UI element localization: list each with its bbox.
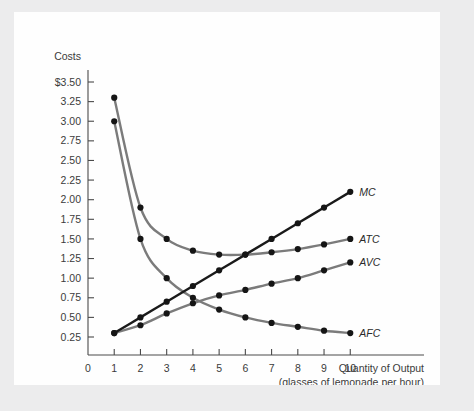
y-tick-label: 3.00 xyxy=(61,115,82,127)
curve-line-avc xyxy=(114,262,350,333)
y-tick-label: $3.50 xyxy=(55,76,81,88)
cost-curves-chart: $3.503.253.002.752.502.252.001.751.501.2… xyxy=(14,12,440,385)
data-point xyxy=(111,118,117,124)
y-tick-label: 0.50 xyxy=(61,311,82,323)
x-tick-label: 7 xyxy=(269,362,275,374)
x-tick-label: 4 xyxy=(190,362,196,374)
data-point xyxy=(164,299,170,305)
curve-line-mc xyxy=(114,192,350,333)
data-point xyxy=(111,330,117,336)
data-point xyxy=(268,320,274,326)
data-point xyxy=(242,287,248,293)
y-tick-label: 3.25 xyxy=(61,95,82,107)
x-axis-title-line2: (glasses of lemonade per hour) xyxy=(279,376,424,385)
series-atc: ATC xyxy=(111,95,380,258)
y-tick-label: 2.00 xyxy=(61,193,82,205)
x-tick-label: 5 xyxy=(216,362,222,374)
y-tick-label: 2.50 xyxy=(61,154,82,166)
data-point xyxy=(347,330,353,336)
x-tick-label: 0 xyxy=(85,362,91,374)
y-tick-label: 1.25 xyxy=(61,252,82,264)
y-tick-label: 0.25 xyxy=(61,331,82,343)
data-point xyxy=(347,259,353,265)
data-point xyxy=(321,328,327,334)
series-avc: AVC xyxy=(111,256,381,336)
data-point xyxy=(216,292,222,298)
curve-label-mc: MC xyxy=(359,186,376,198)
data-point xyxy=(347,236,353,242)
curve-label-atc: ATC xyxy=(358,233,380,245)
x-tick-label: 2 xyxy=(138,362,144,374)
x-tick-label: 8 xyxy=(295,362,301,374)
data-point xyxy=(190,300,196,306)
data-point xyxy=(190,283,196,289)
data-point xyxy=(164,236,170,242)
data-point xyxy=(111,95,117,101)
data-point xyxy=(216,252,222,258)
data-point xyxy=(190,248,196,254)
data-point xyxy=(347,189,353,195)
curve-label-avc: AVC xyxy=(358,256,380,268)
y-tick-label: 2.25 xyxy=(61,174,82,186)
data-point xyxy=(242,252,248,258)
data-point xyxy=(190,295,196,301)
data-point xyxy=(295,246,301,252)
data-point xyxy=(321,241,327,247)
data-point xyxy=(295,275,301,281)
data-point xyxy=(164,310,170,316)
y-tick-label: 1.75 xyxy=(61,213,82,225)
data-point xyxy=(164,275,170,281)
x-axis-title-line1: Quantity of Output xyxy=(339,362,424,374)
data-point xyxy=(295,220,301,226)
data-point xyxy=(268,281,274,287)
data-point xyxy=(137,314,143,320)
data-point xyxy=(268,236,274,242)
data-point xyxy=(137,236,143,242)
y-tick-label: 1.50 xyxy=(61,233,82,245)
data-point xyxy=(216,267,222,273)
y-tick-label: 1.00 xyxy=(61,272,82,284)
x-tick-label: 9 xyxy=(321,362,327,374)
y-axis-title: Costs xyxy=(54,50,81,62)
y-tick-label: 2.75 xyxy=(61,134,82,146)
curve-line-afc xyxy=(114,121,350,333)
curve-label-afc: AFC xyxy=(358,327,380,339)
data-point xyxy=(242,314,248,320)
data-point xyxy=(321,204,327,210)
x-tick-label: 1 xyxy=(111,362,117,374)
data-point xyxy=(137,204,143,210)
figure-panel: $3.503.253.002.752.502.252.001.751.501.2… xyxy=(14,12,440,385)
curve-line-atc xyxy=(114,98,350,255)
data-point xyxy=(295,324,301,330)
x-tick-label: 6 xyxy=(242,362,248,374)
x-tick-label: 3 xyxy=(164,362,170,374)
data-point xyxy=(216,306,222,312)
data-point xyxy=(321,267,327,273)
data-point xyxy=(137,322,143,328)
data-point xyxy=(268,249,274,255)
y-tick-label: 0.75 xyxy=(61,291,82,303)
